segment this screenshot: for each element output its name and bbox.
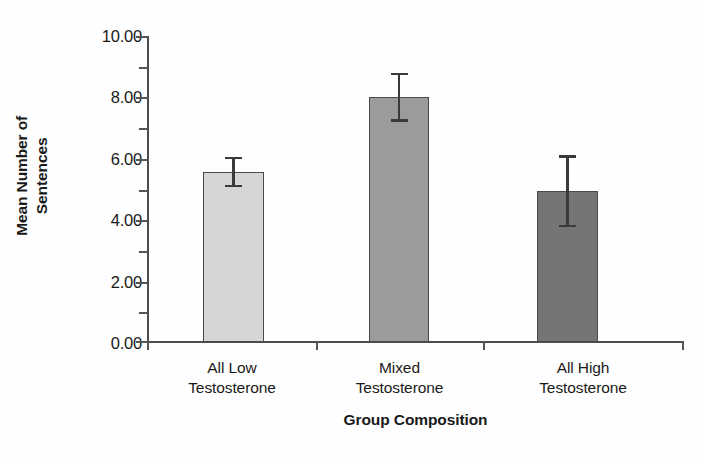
x-category-line-1: All Low <box>151 358 313 378</box>
y-axis-tick-6 <box>136 159 148 161</box>
error-bar-cap-top <box>391 73 408 76</box>
x-axis-category-label-mixed-testosterone: Mixed Testosterone <box>319 358 480 399</box>
y-axis-tick-4 <box>136 220 148 222</box>
bar-mixed-testosterone <box>369 97 429 342</box>
y-axis-minor-tick-3 <box>139 251 148 253</box>
error-bar-cap-bottom <box>391 119 408 122</box>
error-bar-cap-bottom <box>225 185 242 188</box>
x-axis-tick-end <box>682 341 684 350</box>
x-axis-tick-start <box>147 341 149 350</box>
error-bar-cap-top <box>225 157 242 160</box>
bar-all-low-testosterone <box>203 172 264 342</box>
x-axis-category-label-all-low-testosterone: All Low Testosterone <box>151 358 313 399</box>
x-category-line-2: Testosterone <box>151 378 313 398</box>
y-tick-label-2: 2.00 <box>64 273 142 290</box>
y-axis-minor-tick-7 <box>139 128 148 130</box>
y-tick-label-10: 10.00 <box>64 28 142 45</box>
x-axis-category-label-all-high-testosterone: All High Testosterone <box>487 358 679 399</box>
error-bar-cap-bottom <box>559 225 576 228</box>
x-axis-tick-1 <box>316 341 318 350</box>
y-axis-tick-8 <box>136 97 148 99</box>
y-axis-title-line-2: Sentences <box>32 116 52 236</box>
y-axis-title-line-1: Mean Number of <box>12 116 32 236</box>
y-axis-minor-tick-9 <box>139 67 148 69</box>
x-category-line-1: All High <box>487 358 679 378</box>
error-bar-all-high-testosterone <box>537 155 598 227</box>
y-axis-minor-tick-1 <box>139 312 148 314</box>
y-tick-label-4: 4.00 <box>64 212 142 229</box>
y-axis-tick-10 <box>136 36 148 38</box>
x-axis-tick-2 <box>483 341 485 350</box>
y-axis-minor-tick-5 <box>139 190 148 192</box>
error-bar-all-low-testosterone <box>203 157 264 188</box>
x-category-line-2: Testosterone <box>319 378 480 398</box>
y-tick-label-6: 6.00 <box>64 151 142 168</box>
x-category-line-1: Mixed <box>319 358 480 378</box>
error-bar-stem <box>566 155 569 227</box>
y-axis-tick-labels: 10.00 8.00 6.00 4.00 2.00 0.00 <box>64 0 142 464</box>
error-bar-mixed-testosterone <box>369 73 429 122</box>
y-tick-label-8: 8.00 <box>64 89 142 106</box>
y-axis-tick-2 <box>136 282 148 284</box>
y-tick-label-0: 0.00 <box>64 335 142 352</box>
error-bar-stem <box>232 157 235 188</box>
x-category-line-2: Testosterone <box>487 378 679 398</box>
error-bar-stem <box>398 73 401 122</box>
error-bar-cap-top <box>559 155 576 158</box>
bar-chart: Mean Number of Sentences 10.00 8.00 6.00… <box>0 0 701 464</box>
y-axis-title: Mean Number of Sentences <box>0 0 64 352</box>
x-axis-title: Group Composition <box>147 411 684 429</box>
